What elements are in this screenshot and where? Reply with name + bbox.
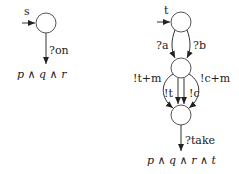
transition-c-plus-m-label: !c+m: [200, 73, 230, 84]
transition-a-label: ?a: [156, 40, 168, 51]
transition-t-label: !t: [164, 88, 173, 99]
diagram-graphics: [0, 0, 239, 174]
state-t-label: t: [164, 5, 168, 16]
transition-c-label: !c: [189, 88, 200, 99]
state-middle: [171, 58, 191, 78]
state-s-label: s: [24, 6, 30, 17]
transition-t-plus-m-label: !t+m: [133, 73, 162, 84]
transition-b-label: ?b: [193, 40, 206, 51]
transition-a-arrow: [172, 30, 175, 58]
transition-on-label: ?on: [49, 45, 69, 56]
state-t: [171, 12, 191, 32]
state-s: [36, 13, 56, 33]
state-bottom: [171, 105, 191, 125]
left-final-formula: p ∧ q ∧ r: [17, 69, 66, 80]
right-automaton: [157, 12, 199, 151]
transition-take-label: ?take: [185, 135, 215, 146]
transition-b-arrow: [187, 30, 190, 58]
right-final-formula: p ∧ q ∧ r ∧ t: [147, 155, 216, 166]
diagram-canvas: s ?on p ∧ q ∧ r t ?a ?b !t+m !c+m !t !c …: [0, 0, 239, 174]
